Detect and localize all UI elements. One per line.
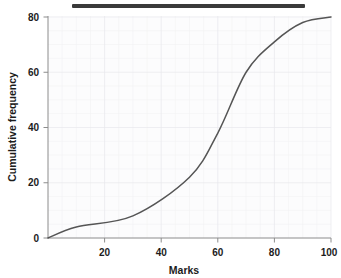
y-tick-label-0: 0 [33, 233, 39, 244]
grid-minor [48, 16, 331, 238]
y-tick-label-20: 20 [28, 177, 40, 188]
y-tick-label-40: 40 [28, 122, 40, 133]
chart-figure: 0 20 40 60 80 20 40 60 80 100 Marks Cumu… [0, 0, 341, 278]
y-tick-label-60: 60 [28, 67, 40, 78]
y-axis-ticks [44, 17, 49, 238]
x-tick-label-100: 100 [321, 247, 338, 258]
x-tick-label-80: 80 [269, 247, 281, 258]
x-axis-title: Marks [169, 264, 200, 276]
y-tick-label-80: 80 [28, 12, 40, 23]
x-tick-label-60: 60 [212, 247, 224, 258]
x-tick-label-20: 20 [99, 247, 111, 258]
x-tick-label-40: 40 [156, 247, 168, 258]
y-axis-title: Cumulative frequency [6, 72, 18, 182]
cumulative-frequency-chart: 0 20 40 60 80 20 40 60 80 100 Marks Cumu… [0, 0, 341, 278]
x-axis-ticks [105, 238, 331, 243]
